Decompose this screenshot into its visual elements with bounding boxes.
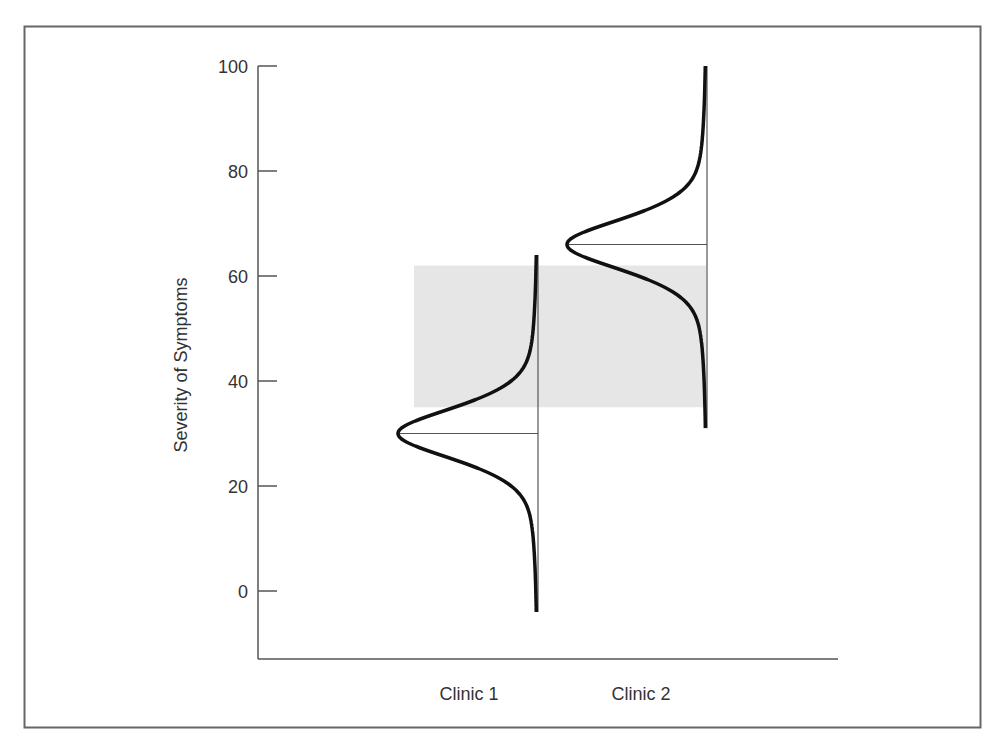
y-tick-label: 60 (228, 267, 248, 287)
y-tick-label: 100 (218, 57, 248, 77)
x-category-label-clinic-2: Clinic 2 (611, 684, 670, 704)
y-tick-label: 0 (238, 582, 248, 602)
y-tick-label: 20 (228, 477, 248, 497)
y-tick-label: 80 (228, 162, 248, 182)
y-tick-label: 40 (228, 372, 248, 392)
y-axis-title: Severity of Symptoms (171, 277, 191, 452)
chart: 020406080100 Severity of Symptoms Clinic… (0, 0, 999, 755)
x-category-label-clinic-1: Clinic 1 (439, 684, 498, 704)
